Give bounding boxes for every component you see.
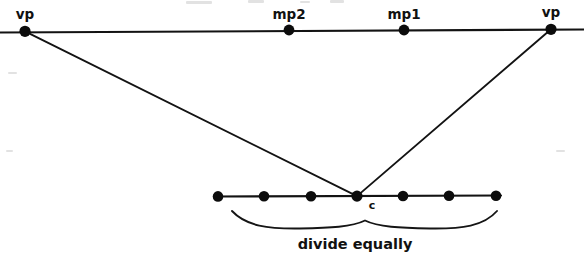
point-division-7[interactable] — [491, 190, 502, 201]
convergence-line-right — [357, 29, 551, 196]
point-mp1[interactable] — [399, 25, 410, 36]
point-center-c[interactable] — [351, 191, 362, 202]
point-division-1[interactable] — [213, 191, 224, 202]
diagram-canvas: vp mp2 mp1 vp c divide equally — [0, 0, 584, 260]
label-vp-right: vp — [542, 4, 561, 20]
label-mp1: mp1 — [387, 6, 420, 22]
point-division-2[interactable] — [259, 191, 270, 202]
label-point-c: c — [369, 199, 376, 212]
perspective-diagram: vp mp2 mp1 vp c divide equally — [0, 0, 584, 260]
point-vp-right[interactable] — [545, 24, 556, 35]
point-division-5[interactable] — [398, 191, 409, 202]
point-division-3[interactable] — [306, 191, 317, 202]
label-mp2: mp2 — [272, 6, 305, 22]
label-vp-left: vp — [16, 6, 35, 22]
caption-divide-equally: divide equally — [298, 236, 413, 252]
scan-noise — [6, 0, 565, 152]
point-vp-left[interactable] — [19, 26, 30, 37]
convergence-line-left — [25, 31, 357, 196]
point-division-6[interactable] — [444, 191, 455, 202]
point-mp2[interactable] — [284, 25, 295, 36]
divide-equally-brace — [232, 211, 497, 229]
